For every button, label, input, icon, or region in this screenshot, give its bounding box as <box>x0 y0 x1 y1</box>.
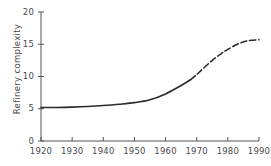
x-tick-marks <box>41 137 259 141</box>
plot-area <box>0 0 271 166</box>
x-tick-label: 1940 <box>88 146 118 156</box>
data-series-group <box>41 40 259 108</box>
x-tick-label: 1930 <box>57 146 87 156</box>
y-tick-label: 5 <box>14 103 34 113</box>
x-tick-label: 1970 <box>182 146 212 156</box>
x-tick-label: 1950 <box>119 146 149 156</box>
data-line-1 <box>190 40 259 80</box>
chart-figure: Refinery complexity 05101520192019301940… <box>0 0 271 166</box>
x-tick-label: 1980 <box>213 146 243 156</box>
data-line-0 <box>41 80 190 108</box>
x-tick-label: 1920 <box>26 146 56 156</box>
x-tick-label: 1990 <box>244 146 271 156</box>
x-tick-label: 1960 <box>151 146 181 156</box>
y-tick-label: 0 <box>14 136 34 146</box>
y-tick-label: 10 <box>14 71 34 81</box>
y-tick-label: 20 <box>14 7 34 17</box>
y-tick-label: 15 <box>14 39 34 49</box>
